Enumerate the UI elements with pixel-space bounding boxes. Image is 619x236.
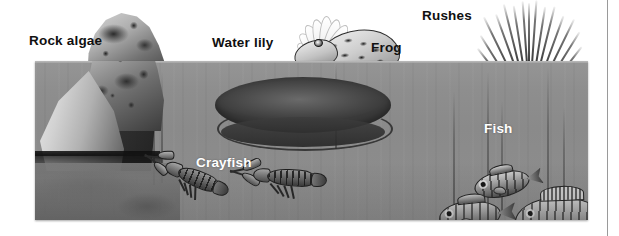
- label-rushes: Rushes: [422, 9, 472, 23]
- label-rock-algae: Rock algae: [29, 34, 102, 48]
- label-water-lily: Water lily: [212, 36, 274, 50]
- label-fish: Fish: [484, 122, 513, 136]
- frog-eye: [314, 39, 323, 47]
- water-lily-flower: [283, 2, 369, 62]
- label-frog: Frog: [371, 41, 402, 55]
- lily-pad: [215, 77, 391, 151]
- right-margin-rule: [607, 0, 608, 236]
- rushes-plant: [478, 0, 578, 64]
- label-crayfish: Crayfish: [196, 156, 252, 170]
- pond-ecosystem-figure: Rock algae Water lily Frog Rushes Crayfi…: [0, 0, 619, 236]
- pond-illustration-panel: [35, 61, 588, 220]
- water-bottom-haze: [35, 162, 588, 220]
